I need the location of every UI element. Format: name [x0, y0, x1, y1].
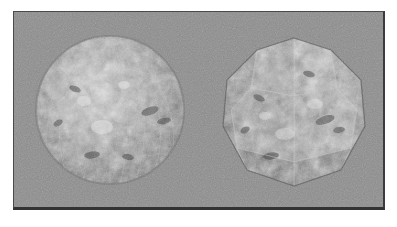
sphere-render	[28, 27, 192, 193]
polyhedron-render	[215, 30, 373, 194]
render-frame	[13, 11, 385, 210]
figure-page	[0, 0, 397, 227]
render-canvas	[14, 12, 383, 207]
polyhedron-object	[215, 30, 373, 194]
sphere-object	[28, 27, 192, 193]
